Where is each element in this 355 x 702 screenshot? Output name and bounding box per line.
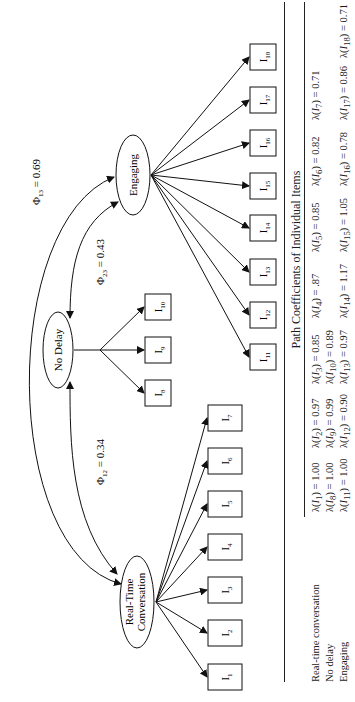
- latent-label: No Delay: [52, 328, 64, 371]
- table-cell: λ(I6) = 0.82: [310, 136, 324, 186]
- row-label: No delay: [324, 552, 335, 682]
- latent-label-line1: Real-Time: [123, 579, 135, 626]
- item-box-I11: I11: [250, 344, 276, 370]
- row-label: Engaging: [338, 552, 349, 682]
- correlation-labels: Φ12 = 0.34 Φ23 = 0.43 Φ13 = 0.69: [30, 159, 109, 486]
- table-cell: λ(I1) = 1.00: [310, 462, 324, 512]
- table-cell: λ(I14) = 1.17: [338, 264, 352, 318]
- item-box-I9: I9: [145, 337, 171, 363]
- item-box-I7: I7: [208, 405, 242, 431]
- table-cell: λ(I8) = 1.00: [324, 462, 338, 512]
- table-cell: λ(I4) = .87: [310, 274, 324, 318]
- table-cell: λ(I12) = 0.90: [338, 394, 352, 448]
- path-coefficients-table: Path Coefficients of Individual Items Re…: [284, 2, 352, 682]
- table-cell: λ(I17) = 0.86: [338, 66, 352, 120]
- item-box-I16: I16: [250, 130, 276, 156]
- item-box-I10: I10: [145, 294, 171, 320]
- table-mid-rule: [304, 2, 305, 517]
- table-cell: λ(I3) = 0.85: [310, 334, 324, 384]
- table-cell: λ(I16) = 0.78: [338, 132, 352, 186]
- phi23-label: Φ23 = 0.43: [94, 239, 109, 286]
- item-box-I13: I13: [250, 259, 276, 285]
- table-title: Path Coefficients of Individual Items: [289, 2, 304, 517]
- phi13-arc: [29, 177, 121, 584]
- item-box-I17: I17: [250, 87, 276, 113]
- latent-no-delay: No Delay: [43, 312, 73, 388]
- item-box-I12: I12: [250, 302, 276, 328]
- table-cell: λ(I2) = 0.97: [310, 398, 324, 448]
- latent-label-line2: Conversation: [135, 572, 147, 631]
- item-box-I1: I1: [208, 664, 242, 690]
- item-box-I6: I6: [208, 448, 242, 474]
- item-box-I4: I4: [208, 534, 242, 560]
- phi12-label: Φ12 = 0.34: [94, 439, 109, 486]
- row-label: Real-time conversation: [310, 552, 321, 682]
- item-box-I3: I3: [208, 577, 242, 603]
- item-box-I5: I5: [208, 491, 242, 517]
- items-no-delay: I8 I9 I10: [145, 294, 171, 406]
- table-cell: λ(I18) = 0.71: [338, 4, 352, 58]
- sem-diagram-figure: Real-Time Conversation No Delay Engaging: [0, 0, 355, 702]
- items-real-time-conversation: I1 I2 I3 I4 I5 I6 I7: [208, 405, 242, 690]
- table-cell: λ(I10) = 0.89: [324, 330, 338, 384]
- latent-label: Engaging: [127, 153, 139, 196]
- table-cell: λ(I11) = 1.00: [338, 458, 352, 512]
- table-cell: λ(I15) = 1.05: [338, 198, 352, 252]
- item-box-I14: I14: [250, 215, 276, 241]
- item-box-I15: I15: [250, 173, 276, 199]
- item-box-I18: I18: [250, 44, 276, 70]
- table-cell: λ(I9) = 0.99: [324, 398, 338, 448]
- latent-real-time-conversation: Real-Time Conversation: [120, 556, 154, 648]
- table-cell: λ(I5) = 0.85: [310, 202, 324, 252]
- latent-engaging: Engaging: [116, 135, 150, 215]
- item-box-I8: I8: [145, 380, 171, 406]
- table-cell: λ(I7) = 0.71: [310, 70, 324, 120]
- items-engaging: I11 I12 I13 I14 I15 I16 I17 I18: [250, 44, 276, 370]
- phi13-label: Φ13 = 0.69: [30, 159, 45, 206]
- table-top-rule: [284, 2, 285, 682]
- table-cell: λ(I13) = 0.97: [338, 330, 352, 384]
- item-box-I2: I2: [208, 620, 242, 646]
- correlation-arcs: [29, 177, 121, 584]
